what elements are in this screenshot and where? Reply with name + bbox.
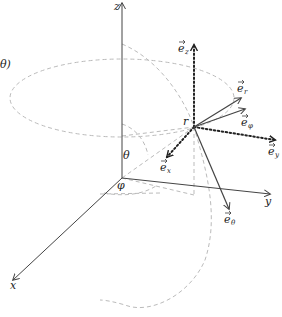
x-axis-label: x [10,279,17,292]
label-e-phi: e φ [241,114,253,130]
label-e-y: e y [268,143,280,159]
cartesian-unit-vectors [167,45,275,157]
projection-origin-to-foot [122,178,194,195]
label-e-r: e r [237,80,248,96]
phi-label: φ [117,179,125,192]
e-theta-base: e [224,213,231,226]
axes [13,3,270,280]
y-axis-label: y [264,195,272,208]
x-axis [13,178,122,280]
z-axis-label: z [113,0,120,13]
e-z-sub: z [184,48,189,56]
e-theta-sub: θ [231,219,236,227]
e-y-sub: y [274,151,280,159]
vector-e-y [194,127,275,140]
e-x-sub: x [167,167,171,175]
e-y-base: e [268,145,275,158]
y-axis [122,178,270,194]
theta-label: θ [123,149,130,162]
label-e-theta: e θ [224,211,236,227]
e-z-base: e [178,42,185,55]
spherical-coordinates-diagram: z y x θ φ θ) r e z e r e φ e y e x e θ [0,0,282,317]
point-r-label: r [183,115,189,128]
phi-guide-line [100,193,160,194]
label-e-x: e x [160,159,171,175]
e-phi-base: e [241,116,248,129]
theta-partial-label: θ) [0,58,11,71]
vector-e-theta [194,127,229,209]
r-horizontal-guide [122,127,194,136]
label-e-z: e z [178,40,189,56]
e-r-base: e [237,82,244,95]
e-r-sub: r [244,88,248,96]
e-x-base: e [160,161,167,174]
e-phi-sub: φ [248,122,253,130]
